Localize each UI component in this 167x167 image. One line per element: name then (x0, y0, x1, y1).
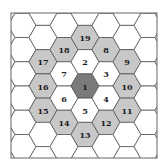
hex-cell-empty (92, 0, 120, 13)
hex-label-7: 7 (61, 69, 67, 79)
hex-cell-empty (29, 0, 57, 1)
hex-cell-empty (134, 159, 162, 167)
hex-label-10: 10 (121, 82, 133, 92)
hex-label-1: 1 (82, 82, 88, 92)
hex-cell-empty (113, 0, 141, 1)
hex-label-17: 17 (37, 57, 48, 67)
hex-label-13: 13 (79, 130, 91, 140)
hex-cell-empty (8, 159, 36, 167)
hex-label-11: 11 (121, 106, 132, 116)
hex-label-12: 12 (100, 118, 111, 128)
hex-cell-empty (71, 0, 99, 1)
hex-cell-empty (155, 0, 167, 1)
hex-label-3: 3 (103, 69, 109, 79)
hex-label-2: 2 (82, 57, 88, 67)
hex-label-19: 19 (79, 33, 91, 43)
hex-cell-empty (50, 0, 78, 13)
hex-label-15: 15 (37, 106, 48, 116)
hex-cell-empty (8, 0, 36, 13)
hex-cell-empty (0, 0, 15, 1)
hex-grid-diagram: 17161518761419215138341291011 (0, 0, 167, 167)
hex-label-8: 8 (103, 45, 109, 55)
hex-label-18: 18 (58, 45, 70, 55)
hex-label-16: 16 (37, 82, 49, 92)
hex-label-14: 14 (58, 118, 70, 128)
hex-label-5: 5 (82, 106, 88, 116)
hex-label-6: 6 (61, 94, 67, 104)
hex-cell-empty (50, 159, 78, 167)
hex-label-4: 4 (103, 94, 109, 104)
hex-cell-empty (134, 0, 162, 13)
hex-cell-empty (92, 159, 120, 167)
hex-label-9: 9 (124, 57, 130, 67)
